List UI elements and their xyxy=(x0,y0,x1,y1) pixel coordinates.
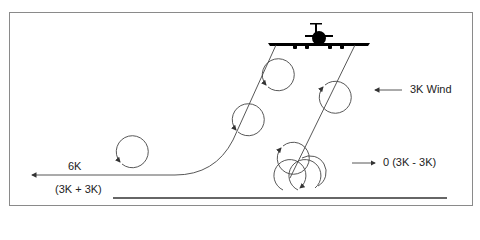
left-vortex-path xyxy=(32,45,276,175)
wind-label: 3K Wind xyxy=(410,83,452,95)
result-label: 0 (3K - 3K) xyxy=(383,156,436,168)
vortex-icon xyxy=(274,81,351,190)
right-vortex-path xyxy=(290,45,355,178)
left-formula-label: (3K + 3K) xyxy=(55,183,102,195)
vortex-icon xyxy=(116,59,294,168)
left-speed-label: 6K xyxy=(68,160,81,172)
